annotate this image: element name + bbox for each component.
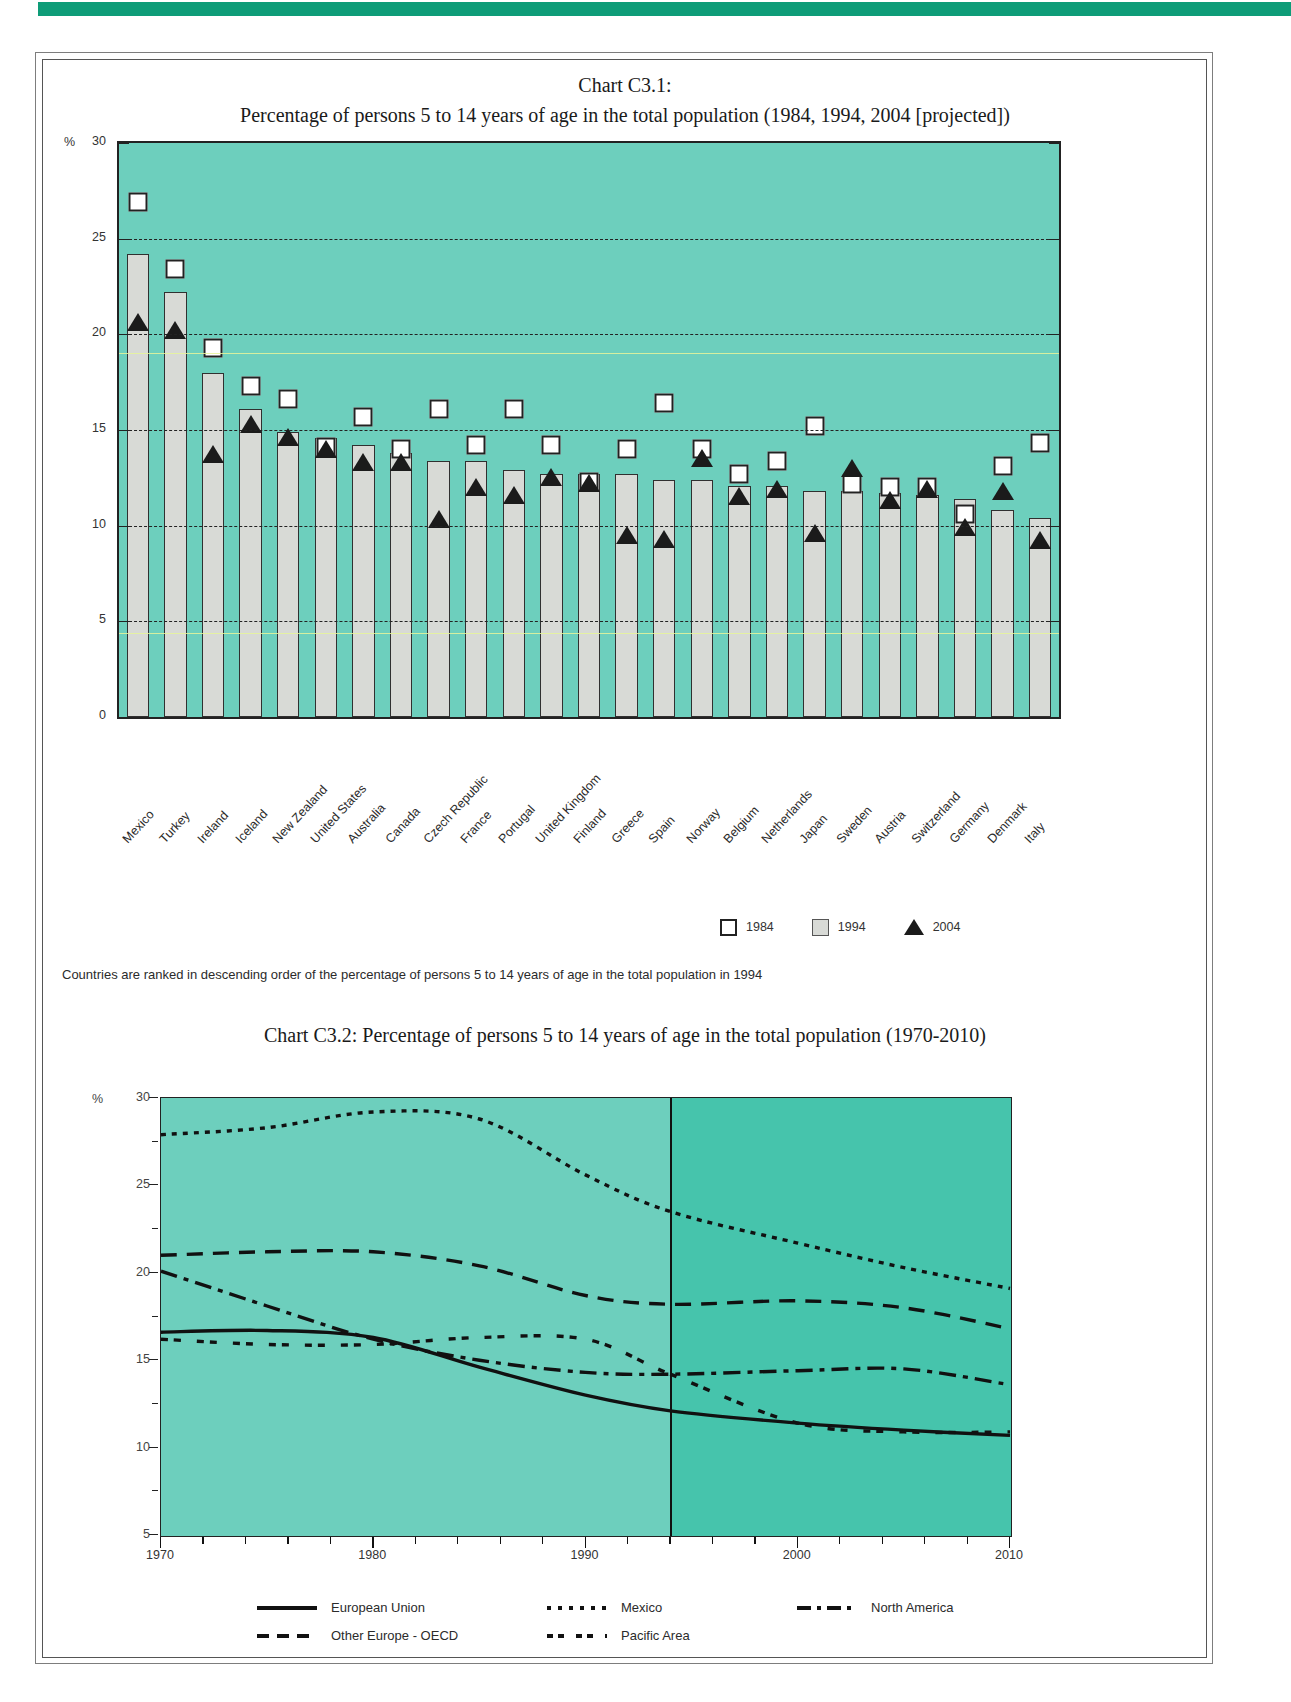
- legend-label-pacific-area: Pacific Area: [621, 1628, 690, 1643]
- legend-label-2004: 2004: [933, 920, 961, 934]
- x-axis-tick-label: Iceland: [232, 807, 270, 846]
- y-tick-mark: [1049, 621, 1059, 622]
- bar-1994: [465, 461, 488, 717]
- line-series: [161, 1271, 1010, 1385]
- x-tick-mark: [669, 1537, 670, 1544]
- x-axis-tick-label: Italy: [1022, 820, 1048, 846]
- marker-1984: [542, 436, 561, 455]
- x-axis-tick-label: Ireland: [195, 808, 231, 846]
- x-tick-mark: [797, 1537, 798, 1548]
- y-minor-tick: [152, 1228, 158, 1229]
- x-tick-mark: [287, 1537, 288, 1544]
- bar-1994: [239, 409, 262, 717]
- marker-2004: [465, 478, 487, 496]
- marker-1984: [128, 193, 147, 212]
- x-axis-tick-label: Denmark: [984, 799, 1029, 846]
- legend-label-1994: 1994: [838, 920, 866, 934]
- x-tick-mark: [967, 1537, 968, 1544]
- marker-1984: [429, 399, 448, 418]
- marker-2004: [578, 474, 600, 492]
- gridline: [119, 621, 1059, 622]
- bar-1994: [352, 445, 375, 717]
- x-axis-tick-label: 1980: [358, 1548, 386, 1562]
- marker-2004: [879, 491, 901, 509]
- marker-2004: [728, 487, 750, 505]
- page-header-rule: [38, 2, 1291, 16]
- marker-2004: [841, 459, 863, 477]
- open-square-icon: [720, 919, 737, 936]
- marker-1984: [1031, 434, 1050, 453]
- x-tick-mark: [160, 1537, 161, 1548]
- marker-2004: [916, 480, 938, 498]
- solid-line-icon: [255, 1601, 319, 1615]
- dash-dot-dot-line-icon: [545, 1629, 609, 1643]
- legend-label-european-union: European Union: [331, 1600, 425, 1615]
- legend-item-north-america: North America: [795, 1600, 953, 1615]
- chart-c32-title-line2: Percentage of persons 5 to 14 years of a…: [362, 1024, 986, 1046]
- x-tick-mark: [627, 1537, 628, 1544]
- bar-1994: [991, 510, 1014, 717]
- legend-item-2004: 2004: [904, 919, 961, 935]
- gridline: [119, 526, 1059, 527]
- x-axis-tick-label: Austria: [872, 808, 909, 846]
- y-tick-mark: [1049, 717, 1059, 718]
- x-tick-mark: [754, 1537, 755, 1544]
- marker-2004: [1029, 531, 1051, 549]
- x-tick-mark: [839, 1537, 840, 1544]
- chart-c32-x-axis-labels: 19701980199020002010: [160, 1548, 1012, 1570]
- legend-label-mexico: Mexico: [621, 1600, 662, 1615]
- y-tick-mark: [1049, 430, 1059, 431]
- x-tick-mark: [712, 1537, 713, 1544]
- y-minor-tick: [152, 1316, 158, 1317]
- marker-1984: [166, 260, 185, 279]
- chart-c31-x-axis-labels: MexicoTurkeyIrelandIcelandNew ZealandUni…: [117, 723, 1061, 848]
- x-tick-mark: [202, 1537, 203, 1544]
- bar-1994: [653, 480, 676, 717]
- marker-2004: [164, 321, 186, 339]
- bar-1994: [503, 470, 526, 717]
- y-tick-mark: [119, 239, 129, 240]
- y-tick-mark: [149, 1359, 158, 1360]
- bar-1994: [615, 474, 638, 717]
- x-axis-tick-label: Portugal: [496, 802, 538, 846]
- y-axis-tick-label: 30: [92, 134, 106, 148]
- line-series: [161, 1336, 1010, 1433]
- gridline: [119, 430, 1059, 431]
- legend-label-other-europe-oecd: Other Europe - OECD: [331, 1628, 458, 1643]
- bar-1994: [164, 292, 187, 717]
- marker-1984: [617, 440, 636, 459]
- bar-1994: [390, 453, 413, 717]
- chart-c32-title-line1: Chart C3.2:: [264, 1024, 357, 1046]
- marker-2004: [503, 486, 525, 504]
- y-tick-mark: [149, 1097, 158, 1098]
- chart-c31-y-unit: %: [64, 135, 75, 149]
- y-tick-mark: [1049, 526, 1059, 527]
- bar-1994: [691, 480, 714, 717]
- gridline: [119, 239, 1059, 240]
- marker-2004: [390, 453, 412, 471]
- marker-1984: [504, 399, 523, 418]
- chart-c32-legend: European Union Mexico North America Othe…: [255, 1600, 1015, 1656]
- y-tick-mark: [1049, 334, 1059, 335]
- legend-label-1984: 1984: [746, 920, 774, 934]
- bar-1994: [578, 474, 601, 717]
- bar-1994: [427, 461, 450, 717]
- y-tick-mark: [1049, 143, 1059, 144]
- legend-item-european-union: European Union: [255, 1600, 545, 1615]
- chart-c32-title: Chart C3.2: Percentage of persons 5 to 1…: [60, 1020, 1190, 1050]
- marker-2004: [766, 480, 788, 498]
- x-axis-tick-label: Canada: [383, 804, 423, 846]
- chart-c31-legend: 1984 1994 2004: [720, 912, 1100, 942]
- legend-row-1: European Union Mexico North America: [255, 1600, 1015, 1615]
- marker-1984: [768, 451, 787, 470]
- bar-1994: [202, 373, 225, 717]
- x-tick-mark: [330, 1537, 331, 1544]
- x-axis-tick-label: 1990: [571, 1548, 599, 1562]
- x-axis-tick-label: Norway: [684, 805, 723, 846]
- chart-c31-title-line1: Chart C3.1:: [578, 74, 671, 96]
- marker-2004: [127, 313, 149, 331]
- x-tick-mark: [457, 1537, 458, 1544]
- pale-guide-line: [119, 633, 1059, 634]
- marker-2004: [616, 526, 638, 544]
- marker-1984: [805, 417, 824, 436]
